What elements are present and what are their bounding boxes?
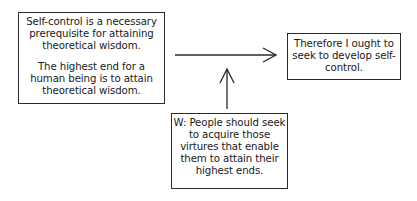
arrows-layer [0,0,417,201]
inference-arrow [175,48,276,62]
warrant-arrow [220,69,234,109]
